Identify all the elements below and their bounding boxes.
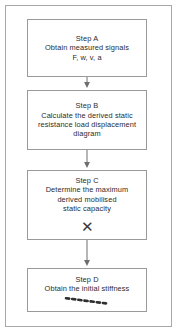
flow-node-step-a-text: Step A Obtain measured signals F, w, v, … bbox=[41, 34, 133, 62]
flow-node-step-c[interactable]: Step C Determine the maximum derived mob… bbox=[27, 170, 147, 240]
dashed-stroke-icon bbox=[64, 296, 110, 305]
flow-node-step-a[interactable]: Step A Obtain measured signals F, w, v, … bbox=[27, 19, 147, 77]
x-mark-icon: ✕ bbox=[81, 219, 94, 234]
flow-node-step-d-text: Step D Obtain the initial stiffness bbox=[41, 275, 134, 294]
flow-node-step-b-text: Step B Calculate the derived static resi… bbox=[34, 101, 140, 139]
flowchart-figure: Step A Obtain measured signals F, w, v, … bbox=[0, 0, 179, 334]
flow-node-step-b[interactable]: Step B Calculate the derived static resi… bbox=[27, 90, 147, 150]
flow-node-step-c-text: Step C Determine the maximum derived mob… bbox=[42, 176, 133, 214]
flow-node-step-d[interactable]: Step D Obtain the initial stiffness bbox=[27, 268, 147, 312]
